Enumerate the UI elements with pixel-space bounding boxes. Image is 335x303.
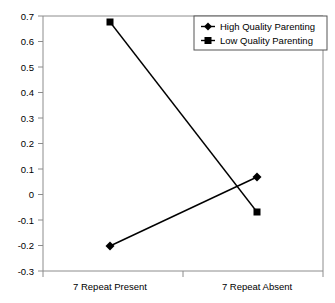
x-category-label-present: 7 Repeat Present (73, 281, 147, 292)
series-high-quality-parenting (106, 173, 262, 251)
square-marker-icon (205, 37, 212, 44)
y-tick-label: -0.2 (18, 240, 34, 251)
y-tick-label: 0.3 (21, 113, 34, 124)
interaction-line-chart: 0.7 0.6 0.5 0.4 0.3 0.2 0.1 0 -0.1 -0.2 … (0, 0, 335, 303)
x-category-label-absent: 7 Repeat Absent (222, 281, 293, 292)
y-tick-label: 0.2 (21, 138, 34, 149)
x-axis-ticks (43, 271, 323, 277)
y-tick-label: 0.1 (21, 164, 34, 175)
legend-label-high-quality: High Quality Parenting (220, 21, 315, 32)
plot-frame (43, 16, 323, 271)
data-point-high-quality-present (106, 242, 115, 251)
chart-canvas: 0.7 0.6 0.5 0.4 0.3 0.2 0.1 0 -0.1 -0.2 … (0, 0, 335, 303)
x-axis-category-labels: 7 Repeat Present 7 Repeat Absent (73, 281, 292, 292)
y-tick-label: 0.7 (21, 11, 34, 22)
y-axis-ticks (38, 16, 43, 271)
chart-legend[interactable]: High Quality Parenting Low Quality Paren… (194, 16, 327, 50)
y-tick-label: 0.5 (21, 62, 34, 73)
y-tick-label: 0.6 (21, 36, 34, 47)
y-tick-label: 0.4 (21, 87, 34, 98)
legend-label-low-quality: Low Quality Parenting (220, 35, 313, 46)
y-tick-label: -0.3 (18, 266, 34, 277)
data-point-high-quality-absent (253, 173, 262, 182)
series-line-high-quality (110, 177, 257, 246)
data-point-low-quality-present (107, 19, 114, 26)
data-point-low-quality-absent (254, 209, 261, 216)
y-axis-tick-labels: 0.7 0.6 0.5 0.4 0.3 0.2 0.1 0 -0.1 -0.2 … (18, 11, 34, 277)
y-tick-label: 0 (29, 189, 34, 200)
y-tick-label: -0.1 (18, 215, 34, 226)
